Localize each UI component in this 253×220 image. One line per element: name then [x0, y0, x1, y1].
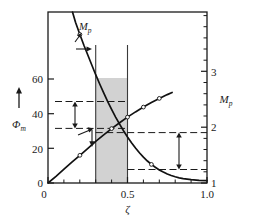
left-tick-label-60: 60 [32, 73, 44, 85]
right-tick-label-2: 2 [211, 121, 217, 133]
marker-phi-5 [157, 97, 161, 101]
x-tick-label-10: 1.0 [200, 188, 214, 200]
marker-mp-2 [150, 163, 154, 167]
right-tick-label-3: 3 [211, 66, 217, 78]
chart-svg: Mp 0 20 40 60 Φm [0, 0, 253, 220]
left-tick-label-40: 40 [32, 108, 44, 120]
marker-phi-2 [110, 127, 114, 131]
marker-phi-3 [126, 115, 130, 119]
chart-figure: Mp 0 20 40 60 Φm [0, 0, 253, 220]
left-tick-label-20: 20 [32, 143, 44, 155]
x-tick-label-0: 0 [41, 188, 47, 200]
marker-phi-1 [78, 153, 82, 157]
x-tick-label-05: 0.5 [121, 188, 135, 200]
marker-phi-4 [142, 105, 146, 109]
